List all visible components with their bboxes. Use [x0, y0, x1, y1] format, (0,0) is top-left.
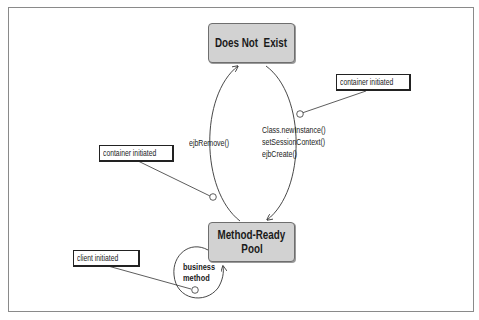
state-does-not-exist-label: Does Not Exist — [215, 36, 287, 50]
create-label-line2: setSessionContext() — [262, 136, 326, 148]
note-create-anchor — [297, 111, 304, 118]
state-pool-label-line2: Pool — [241, 242, 262, 256]
note-container-initiated-remove: container initiated — [99, 145, 174, 162]
business-method-label: business method — [183, 262, 222, 284]
create-label-line1: Class.newInstance() — [262, 124, 326, 136]
ejbremove-label: ejbRemove() — [189, 137, 241, 149]
business-method-line2: method — [183, 273, 215, 284]
note-create-connector — [302, 91, 366, 113]
state-method-ready-pool: Method-Ready Pool — [208, 222, 295, 262]
note-remove-anchor — [210, 194, 217, 201]
create-label: Class.newInstance() setSessionContext() … — [262, 124, 344, 160]
note-remove-connector — [138, 161, 210, 196]
create-label-line3: ejbCreate() — [262, 148, 326, 160]
note-client-initiated: client initiated — [73, 250, 140, 267]
state-does-not-exist: Does Not Exist — [208, 23, 295, 63]
note-container-initiated-create: container initiated — [336, 74, 411, 91]
business-method-line1: business — [183, 262, 215, 273]
note-business-connector — [108, 266, 191, 289]
state-pool-label-line1: Method-Ready — [218, 228, 286, 242]
note-business-anchor — [192, 287, 199, 294]
